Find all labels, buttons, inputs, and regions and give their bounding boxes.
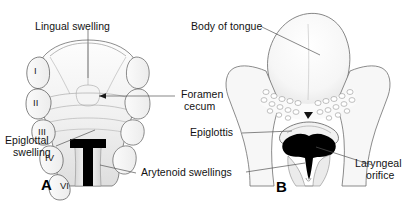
anatomical-figure-root: Lingual swelling Body of tongue Foramen … (0, 0, 417, 210)
label-foramen-cecum-line2: cecum (184, 101, 215, 113)
label-epiglottis: Epiglottis (190, 127, 233, 139)
label-body-of-tongue: Body of tongue (191, 21, 262, 33)
arch-numeral-ii: II (33, 97, 38, 108)
arch-numeral-iii: III (38, 126, 46, 137)
arch-numeral-iv: IV (45, 152, 54, 163)
arch-numeral-i: I (34, 65, 37, 76)
interarytenoid-notch (306, 178, 311, 181)
panel-letter-b: B (276, 178, 287, 195)
arch-ii (26, 89, 51, 119)
arch-i (27, 57, 50, 89)
label-lingual-swelling: Lingual swelling (35, 21, 110, 33)
label-laryngeal-orifice-line2: orifice (366, 170, 394, 182)
arch-numeral-vi: VI (60, 180, 69, 191)
arch-i-right (126, 57, 149, 89)
label-foramen-cecum-line1: Foramen (181, 89, 223, 101)
label-arytenoid-swellings: Arytenoid swellings (141, 167, 232, 179)
panel-letter-a: A (41, 176, 52, 193)
arch-iv-right (113, 146, 136, 174)
arch-iii-right (121, 120, 144, 145)
tuberculum-impar (76, 85, 100, 106)
label-laryngeal-orifice-line1: Laryngeal (355, 158, 402, 170)
arch-ii-right (125, 89, 150, 119)
